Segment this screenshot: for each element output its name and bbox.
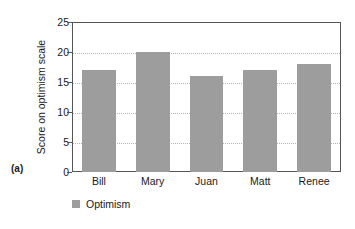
y-axis-tick-label: 20 <box>47 46 69 58</box>
y-axis-title: Score on optimism scale <box>35 40 47 154</box>
x-axis-tick-label: Bill <box>92 175 106 187</box>
bar-matt <box>243 70 277 172</box>
bar-bill <box>82 70 116 172</box>
figure-panel: (a) Score on optimism scale 0510152025 B… <box>0 0 355 229</box>
y-axis-tick-label: 15 <box>47 76 69 88</box>
y-axis-tick-label: 25 <box>47 16 69 28</box>
x-axis-tick-label: Renee <box>299 175 330 187</box>
bar-mary <box>136 52 170 172</box>
y-axis-tick-mark <box>67 172 72 173</box>
bars-container <box>72 22 341 172</box>
bar-juan <box>190 76 224 172</box>
x-axis-tick-label: Juan <box>195 175 218 187</box>
legend: Optimism <box>72 198 130 210</box>
y-axis-tick-label: 10 <box>47 106 69 118</box>
y-axis-tick-label: 0 <box>47 166 69 178</box>
panel-label: (a) <box>11 163 23 174</box>
y-axis-title-container: Score on optimism scale <box>33 22 49 172</box>
x-axis-tick-label: Mary <box>141 175 164 187</box>
legend-label-optimism: Optimism <box>86 198 130 210</box>
legend-swatch-optimism <box>72 200 80 208</box>
x-axis-tick-label: Matt <box>250 175 270 187</box>
y-axis-tick-label: 5 <box>47 136 69 148</box>
bar-renee <box>297 64 331 172</box>
